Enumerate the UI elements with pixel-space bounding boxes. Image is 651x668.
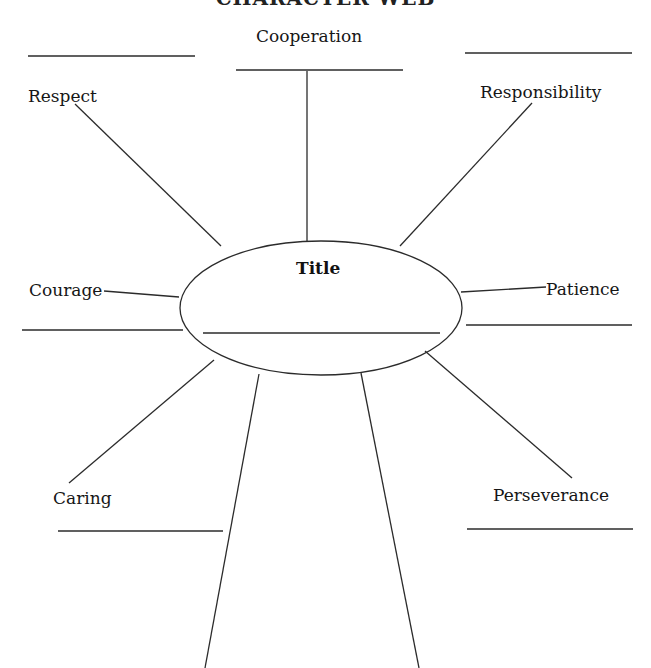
trait-label-responsibility: Responsibility [480,82,601,102]
trait-label-cooperation: Cooperation [256,26,362,46]
trait-label-courage: Courage [29,280,102,300]
spoke-responsibility [400,103,532,246]
spoke-caring [69,360,214,483]
spoke-perseverance [425,351,572,478]
center-title-label: Title [296,258,340,278]
spoke-respect [75,104,221,246]
spoke-patience [461,287,546,292]
trait-label-patience: Patience [546,279,620,299]
trait-label-caring: Caring [53,488,112,508]
spoke-bottom-left [205,374,259,668]
trait-label-respect: Respect [28,86,97,106]
trait-label-perseverance: Perseverance [493,485,609,505]
spoke-courage [104,291,179,297]
spoke-bottom-right [361,373,419,668]
